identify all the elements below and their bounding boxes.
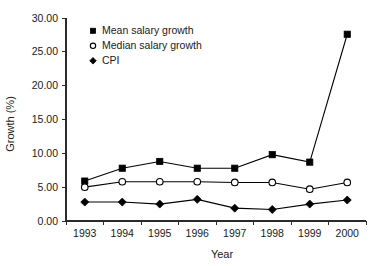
x-tick-label: 2000 (336, 227, 360, 239)
legend-label: CPI (102, 54, 120, 66)
marker-open-circle (81, 184, 88, 191)
marker-filled-square (344, 31, 350, 37)
marker-filled-square (90, 28, 95, 33)
marker-open-circle (231, 179, 238, 186)
marker-filled-square (119, 165, 125, 171)
marker-open-circle (90, 43, 95, 48)
marker-open-circle (269, 179, 276, 186)
y-tick-label: 30.00 (32, 12, 58, 24)
x-tick-label: 1994 (111, 227, 135, 239)
marker-open-circle (306, 186, 313, 193)
x-tick-label: 1995 (148, 227, 172, 239)
y-tick-label: 20.00 (32, 79, 58, 91)
marker-filled-square (269, 152, 275, 158)
x-tick-label: 1999 (298, 227, 322, 239)
x-tick-label: 1997 (223, 227, 247, 239)
marker-filled-square (194, 165, 200, 171)
legend-label: Mean salary growth (102, 24, 194, 36)
legend-label: Median salary growth (102, 39, 202, 51)
marker-filled-square (232, 165, 238, 171)
y-tick-label: 5.00 (38, 181, 59, 193)
legend-item: Mean salary growth (90, 24, 193, 36)
marker-open-circle (344, 179, 351, 186)
x-tick-label: 1998 (261, 227, 285, 239)
chart-container: 0.005.0010.0015.0020.0025.0030.00 199319… (0, 0, 378, 266)
line-chart: 0.005.0010.0015.0020.0025.0030.00 199319… (0, 0, 378, 266)
y-tick-label: 25.00 (32, 45, 58, 57)
y-tick-label: 15.00 (32, 113, 58, 125)
x-tick-label: 1993 (73, 227, 97, 239)
marker-open-circle (156, 178, 163, 185)
x-tick-label: 1996 (186, 227, 210, 239)
y-tick-label: 0.00 (38, 215, 59, 227)
marker-open-circle (194, 178, 201, 185)
marker-filled-square (307, 159, 313, 165)
x-axis-title: Year (211, 248, 234, 260)
y-tick-label: 10.00 (32, 147, 58, 159)
legend-item: Median salary growth (90, 39, 202, 51)
marker-open-circle (119, 178, 126, 185)
y-axis-title: Growth (%) (4, 96, 16, 152)
marker-filled-square (157, 158, 163, 164)
marker-filled-square (82, 178, 88, 184)
